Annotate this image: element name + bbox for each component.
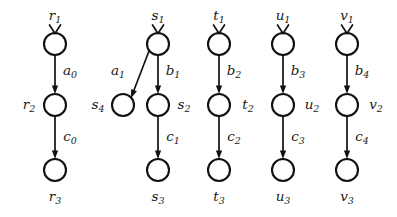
entry-arrowhead-r1 <box>50 25 61 34</box>
edge-label-c4: c4 <box>355 128 369 146</box>
node-labels-layer: r1r2r3s1s4s2s3t1t2t3u1u2u3v1v2v3 <box>23 7 383 206</box>
node-label-u2: u2 <box>305 96 320 114</box>
node-label-u1: u1 <box>276 7 291 25</box>
node-r3[interactable] <box>44 159 66 181</box>
edge-label-c2: c2 <box>227 128 241 146</box>
node-label-s2: s2 <box>178 96 191 114</box>
node-label-t3: t3 <box>213 188 224 206</box>
edge-label-a1: a1 <box>111 62 125 80</box>
node-v2[interactable] <box>336 94 358 116</box>
node-label-s1: s1 <box>152 7 165 25</box>
node-v1[interactable] <box>336 33 358 55</box>
entry-arrowhead-s1 <box>153 25 164 34</box>
node-label-u3: u3 <box>276 188 291 206</box>
edge-label-b3: b3 <box>291 62 306 80</box>
edge-label-b1: b1 <box>166 62 181 80</box>
node-u1[interactable] <box>272 33 294 55</box>
arrowhead-s1-to-s4 <box>131 89 137 98</box>
edge-s1-to-s4 <box>134 51 149 91</box>
node-label-t1: t1 <box>213 7 224 25</box>
arrowhead-t2-to-t3 <box>216 151 222 160</box>
arrowhead-v2-to-v3 <box>344 151 350 160</box>
edge-label-c0: c0 <box>63 128 77 146</box>
arrowhead-u2-to-u3 <box>280 151 286 160</box>
node-label-s4: s4 <box>92 96 105 114</box>
edge-label-c3: c3 <box>291 128 305 146</box>
node-t3[interactable] <box>208 159 230 181</box>
node-t1[interactable] <box>208 33 230 55</box>
arrowhead-t1-to-t2 <box>216 86 222 95</box>
diagram-canvas: r1r2r3s1s4s2s3t1t2t3u1u2u3v1v2v3 a0c0a1b… <box>0 0 397 217</box>
node-u2[interactable] <box>272 94 294 116</box>
node-s4[interactable] <box>112 94 134 116</box>
node-v3[interactable] <box>336 159 358 181</box>
edge-label-c1: c1 <box>166 128 180 146</box>
node-label-r3: r3 <box>49 188 62 206</box>
node-s1[interactable] <box>147 33 169 55</box>
node-label-v3: v3 <box>340 188 354 206</box>
arrowhead-s1-to-s2 <box>155 86 161 95</box>
entry-arrowhead-t1 <box>214 25 225 34</box>
node-r1[interactable] <box>44 33 66 55</box>
node-label-t2: t2 <box>242 96 253 114</box>
arrowhead-s2-to-s3 <box>155 151 161 160</box>
node-t2[interactable] <box>208 94 230 116</box>
node-label-s3: s3 <box>152 188 165 206</box>
node-label-r1: r1 <box>49 7 62 25</box>
arrowhead-v1-to-v2 <box>344 86 350 95</box>
node-r2[interactable] <box>44 94 66 116</box>
node-u3[interactable] <box>272 159 294 181</box>
arrowhead-r2-to-r3 <box>52 151 58 160</box>
edge-label-b2: b2 <box>227 62 242 80</box>
entry-arrowhead-u1 <box>278 25 289 34</box>
arrowhead-r1-to-r2 <box>52 86 58 95</box>
node-s3[interactable] <box>147 159 169 181</box>
state-chain-diagram: r1r2r3s1s4s2s3t1t2t3u1u2u3v1v2v3 a0c0a1b… <box>0 0 397 217</box>
edge-label-b4: b4 <box>355 62 370 80</box>
arrowhead-u1-to-u2 <box>280 86 286 95</box>
entry-arrowhead-v1 <box>342 25 353 34</box>
node-s2[interactable] <box>147 94 169 116</box>
node-label-v1: v1 <box>340 7 354 25</box>
node-label-v2: v2 <box>369 96 383 114</box>
node-label-r2: r2 <box>23 96 36 114</box>
edge-label-a0: a0 <box>63 62 77 80</box>
